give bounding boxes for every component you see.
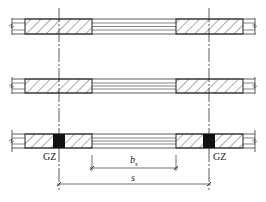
wall-spacing-label: s [131, 172, 135, 183]
left-column-gz [53, 134, 65, 148]
left-column-label: GZ [43, 151, 56, 162]
opening-width-label: bs [130, 154, 138, 168]
right-column-gz [203, 134, 215, 148]
right-column-label: GZ [213, 151, 226, 162]
wall-row-2 [9, 77, 257, 94]
wall-row-3 [9, 130, 257, 152]
wall-row-1 [9, 18, 257, 35]
opening-width-subscript: s [135, 160, 138, 168]
